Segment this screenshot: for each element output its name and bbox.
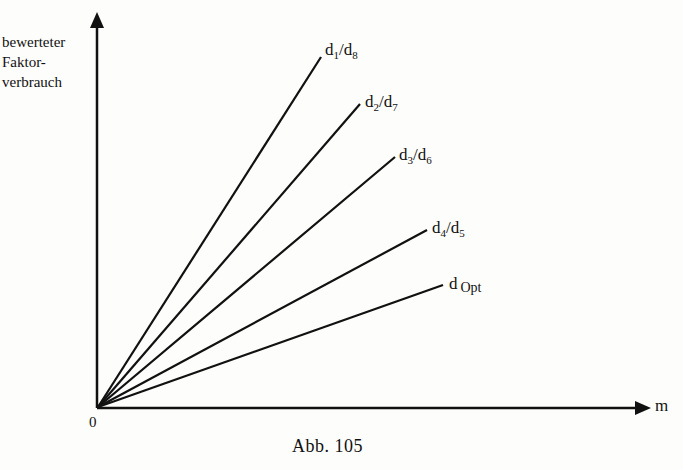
y-axis-arrowhead (90, 12, 104, 28)
line-label-d1-d8: d1/d8 (325, 40, 358, 61)
y-axis-label-line: bewerteter (2, 32, 65, 52)
y-axis-label-line: Faktor- (2, 52, 65, 72)
line-label-d4-d5: d4/d5 (432, 218, 465, 239)
ray-line (98, 230, 427, 407)
ray-line (98, 157, 395, 407)
label-sub: 8 (352, 49, 358, 61)
label-sub: 5 (459, 227, 465, 239)
line-label-d2-d7: d2/d7 (365, 92, 398, 113)
label-main: d (432, 218, 441, 237)
line-label-d-opt: dOpt (449, 274, 482, 294)
label-main: d (325, 40, 334, 59)
label-sep: /d (339, 40, 352, 59)
label-sub: 6 (426, 154, 432, 166)
origin-label: 0 (89, 414, 97, 431)
figure-caption: Abb. 105 (292, 436, 363, 457)
x-axis-arrowhead (635, 401, 651, 415)
label-sep: /d (446, 218, 459, 237)
y-axis-label: bewerteter Faktor- verbrauch (2, 32, 65, 92)
label-sep: /d (379, 92, 392, 111)
diagram-canvas (0, 0, 683, 470)
y-axis-label-line: verbrauch (2, 72, 65, 92)
label-sub: Opt (461, 280, 482, 295)
label-sub: 7 (392, 101, 398, 113)
label-sep: /d (413, 145, 426, 164)
label-main: d (365, 92, 374, 111)
x-axis-label: m (655, 396, 668, 416)
label-main: d (449, 274, 458, 293)
ray-line (98, 57, 321, 407)
label-main: d (399, 145, 408, 164)
line-label-d3-d6: d3/d6 (399, 145, 432, 166)
